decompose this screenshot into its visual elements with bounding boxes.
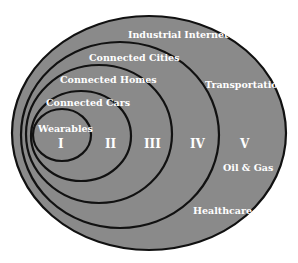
label-connected-cities: Connected Cities [89,52,179,63]
iot-nested-diagram: Industrial Internet Connected Cities Con… [0,0,298,263]
sector-transportation: Transportation [205,79,285,90]
level-II: II [105,137,117,151]
level-V: V [239,137,250,151]
label-wearables: Wearables [37,123,93,134]
label-connected-cars: Connected Cars [46,97,130,108]
level-I: I [58,137,64,151]
sector-healthcare: Healthcare [193,205,252,216]
label-industrial-internet: Industrial Internet [128,29,229,40]
ring-wearables [33,109,91,161]
sector-oil-gas: Oil & Gas [223,162,273,173]
label-connected-homes: Connected Homes [60,74,157,85]
level-III: III [144,137,161,151]
level-IV: IV [190,137,206,151]
